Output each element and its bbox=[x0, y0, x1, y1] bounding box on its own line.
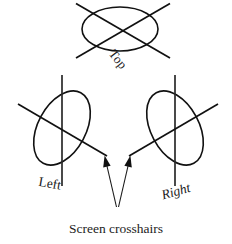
right-arrow-head-icon bbox=[124, 156, 131, 168]
left-arrow-leader bbox=[107, 164, 117, 207]
right-screen-group bbox=[129, 75, 218, 186]
right-diagonal-crosshair bbox=[129, 104, 218, 156]
top-screen-group bbox=[76, 4, 170, 59]
right-arrow-leader bbox=[119, 164, 129, 207]
figure-canvas bbox=[0, 0, 232, 244]
figure-caption: Screen crosshairs bbox=[0, 222, 232, 236]
callout-arrows-group bbox=[103, 156, 132, 208]
screen-crosshairs-figure: Top Left Right Screen crosshairs bbox=[0, 0, 232, 244]
left-screen-group bbox=[18, 75, 107, 186]
left-arrow-head-icon bbox=[103, 156, 110, 168]
left-screen-label: Left bbox=[38, 175, 63, 192]
